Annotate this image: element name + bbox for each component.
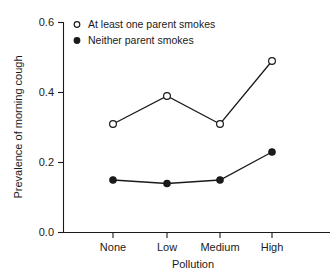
chart-figure: 0.0 0.2 0.4 0.6 None Low Medium High Pol… xyxy=(0,0,336,275)
data-point xyxy=(269,149,275,155)
x-tick-marks xyxy=(113,233,272,239)
legend-marker-open-circle-icon xyxy=(74,22,80,28)
y-tick-label-3: 0.6 xyxy=(39,16,54,28)
x-axis-title: Pollution xyxy=(172,258,214,270)
data-point xyxy=(110,121,117,128)
x-tick-label-medium: Medium xyxy=(200,241,239,253)
series-line-neither-parent-smokes xyxy=(113,152,272,184)
x-tick-label-high: High xyxy=(261,241,284,253)
legend-marker-filled-circle-icon xyxy=(74,38,80,44)
line-chart-canvas: 0.0 0.2 0.4 0.6 None Low Medium High Pol… xyxy=(0,0,336,275)
y-tick-label-2: 0.4 xyxy=(39,86,54,98)
x-tick-label-none: None xyxy=(100,241,126,253)
data-point xyxy=(164,180,170,186)
axis-lines xyxy=(64,22,331,233)
data-point xyxy=(217,121,224,128)
y-tick-label-1: 0.2 xyxy=(39,156,54,168)
y-tick-marks xyxy=(58,23,64,233)
data-point xyxy=(217,177,223,183)
data-point xyxy=(269,58,276,65)
series-markers-at-least-one-parent-smokes xyxy=(110,58,276,128)
y-axis-title: Prevalence of morning cough xyxy=(12,55,24,198)
legend: At least one parent smokes Neither paren… xyxy=(74,18,215,46)
legend-label-1: Neither parent smokes xyxy=(88,34,194,46)
data-point xyxy=(164,93,171,100)
y-tick-label-0: 0.0 xyxy=(39,226,54,238)
series-line-at-least-one-parent-smokes xyxy=(113,61,272,124)
data-point xyxy=(110,177,116,183)
legend-label-0: At least one parent smokes xyxy=(88,18,215,30)
x-tick-label-low: Low xyxy=(157,241,177,253)
